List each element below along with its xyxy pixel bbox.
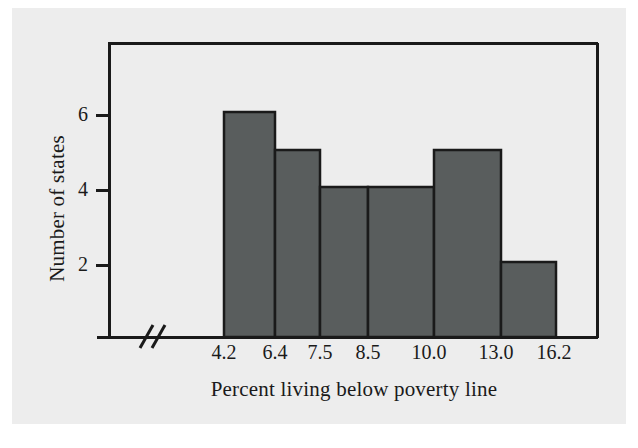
histogram-bar	[224, 112, 275, 337]
figure-container: 6 4 2 4.2 6.4 7.5 8.5 10.0 13.0 16.2 Num…	[0, 0, 638, 448]
x-tick-label: 13.0	[469, 341, 523, 364]
x-tick-label: 10.0	[402, 341, 456, 364]
x-tick-label: 16.2	[527, 341, 581, 364]
histogram-bar	[368, 187, 434, 337]
y-axis-title: Number of states	[45, 109, 70, 309]
x-tick-label: 8.5	[341, 341, 395, 364]
histogram-chart: 6 4 2 4.2 6.4 7.5 8.5 10.0 13.0 16.2 Num…	[0, 0, 638, 448]
histogram-bar	[275, 150, 320, 337]
y-axis	[96, 43, 109, 338]
x-tick-label: 7.5	[293, 341, 347, 364]
x-tick-label: 4.2	[197, 341, 251, 364]
histogram-bar	[320, 187, 368, 337]
histogram-bars	[224, 112, 556, 337]
x-axis-title: Percent living below poverty line	[108, 377, 600, 402]
histogram-bar	[501, 262, 556, 337]
histogram-bar	[434, 150, 501, 337]
